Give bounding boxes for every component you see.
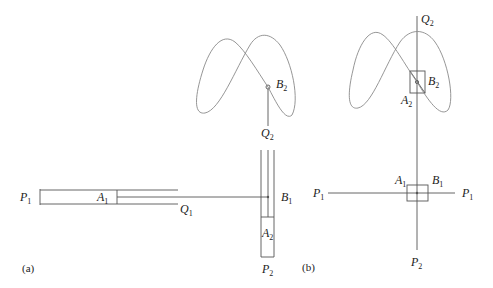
caption-b: (b) xyxy=(302,261,315,274)
label-p1-right: P1 xyxy=(461,186,473,202)
label-b1: B1 xyxy=(281,190,292,206)
trajectory-curve-a xyxy=(197,35,296,116)
label-q2: Q2 xyxy=(261,126,274,142)
label-p2: P2 xyxy=(261,262,273,278)
label-p2-b: P2 xyxy=(410,255,422,271)
label-a2-b: A2 xyxy=(400,93,412,109)
label-q1: Q1 xyxy=(180,202,193,218)
label-b2-b: B2 xyxy=(428,74,439,90)
label-p1-left: P1 xyxy=(312,186,324,202)
joint-b1 xyxy=(267,196,269,198)
joint-center xyxy=(416,192,418,194)
caption-a: (a) xyxy=(22,262,35,275)
label-q2-b: Q2 xyxy=(421,12,434,28)
panel-a: P1 A1 Q1 B1 A2 P2 Q2 B2 (a) xyxy=(19,35,295,278)
label-a1: A1 xyxy=(96,190,108,206)
label-a1-b: A1 xyxy=(394,173,406,189)
figure-canvas: P1 A1 Q1 B1 A2 P2 Q2 B2 (a) Q2 B2 A2 A1 … xyxy=(0,0,493,288)
label-b1-b: B1 xyxy=(432,173,443,189)
panel-b: Q2 B2 A2 A1 B1 P1 P1 P2 (b) xyxy=(302,12,473,274)
label-b2: B2 xyxy=(276,77,287,93)
label-p1: P1 xyxy=(19,190,31,206)
label-a2: A2 xyxy=(261,226,273,242)
